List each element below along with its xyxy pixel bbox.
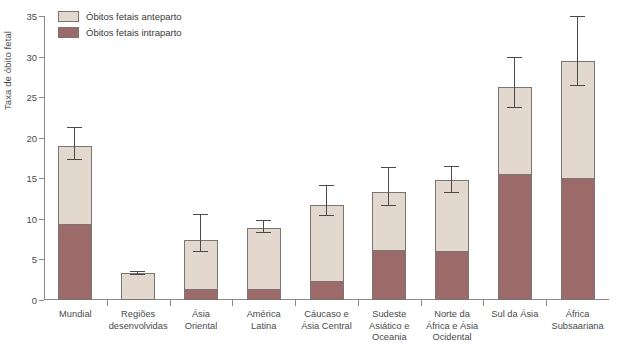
y-tick-mark xyxy=(39,57,44,58)
category-label-line: Oceania xyxy=(353,332,425,344)
category-label-line: Sul da Ásia xyxy=(479,309,551,321)
error-bar-cap-lower xyxy=(570,85,585,86)
error-bar-cap-lower xyxy=(507,107,522,108)
category-label-line: Latina xyxy=(228,321,300,333)
x-tick-mark xyxy=(421,300,422,306)
legend: Óbitos fetais anteparto Óbitos fetais in… xyxy=(58,10,182,42)
y-tick-label: 0 xyxy=(32,295,37,306)
error-bar xyxy=(74,128,75,160)
category-label-line: Mundial xyxy=(39,309,111,321)
error-bar xyxy=(326,186,327,216)
y-tick-mark xyxy=(39,219,44,220)
error-bar-cap-upper xyxy=(444,166,459,167)
error-bar xyxy=(451,167,452,193)
y-tick-label: 10 xyxy=(26,213,37,224)
bar-segment-anteparto xyxy=(248,229,280,289)
error-bar-cap-upper xyxy=(256,220,271,221)
error-bar-cap-upper xyxy=(319,185,334,186)
x-tick-mark xyxy=(358,300,359,306)
stacked-bar[interactable] xyxy=(372,192,406,300)
category-label-line: África xyxy=(542,309,614,321)
category-label-line: Norte da xyxy=(416,309,488,321)
x-axis-category-label: SudesteAsiático eOceania xyxy=(353,309,425,344)
category-label-line: desenvolvidas xyxy=(102,321,174,333)
error-bar-cap-upper xyxy=(67,127,82,128)
fetal-death-rate-chart: Taxa de óbito fetal 05101520253035 Mundi… xyxy=(0,0,617,350)
stacked-bar[interactable] xyxy=(247,228,281,300)
error-bar xyxy=(200,215,201,252)
error-bar-cap-upper xyxy=(381,167,396,168)
bar-segment-anteparto xyxy=(499,88,531,174)
error-bar-cap-lower xyxy=(256,232,271,233)
legend-item-intraparto: Óbitos fetais intraparto xyxy=(58,26,182,38)
stacked-bar[interactable] xyxy=(310,205,344,300)
category-label-line: Sudeste xyxy=(353,309,425,321)
y-axis-line xyxy=(44,16,45,300)
x-axis-category-label: Mundial xyxy=(39,309,111,321)
x-axis-category-label: AméricaLatina xyxy=(228,309,300,332)
bar-segment-anteparto xyxy=(311,206,343,281)
y-tick-mark xyxy=(39,178,44,179)
category-label-line: Subsaariana xyxy=(542,321,614,333)
bar-segment-intraparto xyxy=(122,299,154,300)
bar-segment-intraparto xyxy=(59,224,91,300)
error-bar xyxy=(388,168,389,206)
bar-segment-intraparto xyxy=(248,289,280,300)
bar-segment-intraparto xyxy=(499,174,531,300)
category-label-line: Ocidental xyxy=(416,332,488,344)
x-tick-mark xyxy=(170,300,171,306)
y-tick-mark xyxy=(39,138,44,139)
x-axis-category-label: ÁfricaSubsaariana xyxy=(542,309,614,332)
stacked-bar[interactable] xyxy=(561,61,595,300)
category-label-line: Regiões xyxy=(102,309,174,321)
stacked-bar[interactable] xyxy=(498,87,532,300)
x-axis-category-label: Sul da Ásia xyxy=(479,309,551,321)
stacked-bar[interactable] xyxy=(184,240,218,300)
category-label-line: Ásia Central xyxy=(291,321,363,333)
x-axis-category-label: ÁsiaOriental xyxy=(165,309,237,332)
plot-area: 05101520253035 xyxy=(44,16,609,300)
bar-segment-intraparto xyxy=(436,251,468,300)
bar-segment-anteparto xyxy=(122,274,154,298)
stacked-bar[interactable] xyxy=(121,273,155,300)
category-label-line: Ásia xyxy=(165,309,237,321)
y-tick-label: 5 xyxy=(32,254,37,265)
stacked-bar[interactable] xyxy=(435,180,469,300)
x-tick-mark xyxy=(107,300,108,306)
x-axis-category-label: Regiõesdesenvolvidas xyxy=(102,309,174,332)
y-tick-mark xyxy=(39,300,44,301)
bar-segment-intraparto xyxy=(185,289,217,300)
error-bar-cap-upper xyxy=(507,57,522,58)
legend-label-intraparto: Óbitos fetais intraparto xyxy=(86,27,182,38)
category-label-line: África e Ásia xyxy=(416,321,488,333)
y-axis-title: Taxa de óbito fetal xyxy=(2,0,13,110)
error-bar-cap-lower xyxy=(130,274,145,275)
error-bar-cap-upper xyxy=(570,16,585,17)
bar-segment-intraparto xyxy=(311,281,343,300)
y-tick-label: 25 xyxy=(26,92,37,103)
bar-segment-intraparto xyxy=(562,178,594,300)
x-tick-mark xyxy=(483,300,484,306)
y-tick-label: 30 xyxy=(26,51,37,62)
error-bar-cap-lower xyxy=(193,251,208,252)
bar-segment-anteparto xyxy=(373,193,405,250)
y-tick-label: 15 xyxy=(26,173,37,184)
error-bar xyxy=(577,17,578,86)
y-tick-mark xyxy=(39,259,44,260)
bar-segment-intraparto xyxy=(373,250,405,300)
category-label-line: Oriental xyxy=(165,321,237,333)
error-bar-cap-lower xyxy=(381,205,396,206)
x-axis-category-label: Cáucaso eÁsia Central xyxy=(291,309,363,332)
error-bar xyxy=(514,58,515,107)
legend-swatch-intraparto xyxy=(58,27,79,38)
y-tick-mark xyxy=(39,97,44,98)
x-tick-mark xyxy=(546,300,547,306)
legend-item-anteparto: Óbitos fetais anteparto xyxy=(58,10,182,22)
stacked-bar[interactable] xyxy=(58,146,92,300)
error-bar-cap-upper xyxy=(130,271,145,272)
legend-label-anteparto: Óbitos fetais anteparto xyxy=(86,11,182,22)
bar-segment-anteparto xyxy=(185,241,217,289)
bar-segment-anteparto xyxy=(562,62,594,177)
y-tick-mark xyxy=(39,16,44,17)
category-label-line: Asiático e xyxy=(353,321,425,333)
